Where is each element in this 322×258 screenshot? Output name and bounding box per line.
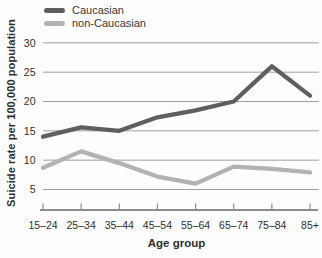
y-tick-label: 25 [24, 66, 36, 78]
x-tick-label: 75–84 [257, 219, 286, 231]
y-axis-title: Suicide rate per 100,000 population [5, 19, 17, 207]
suicide-rate-chart-figure: 5101520253015–2425–3435–4445–5455–6465–7… [0, 0, 322, 258]
legend-label-non-caucasian: non-Caucasian [72, 18, 146, 29]
x-tick-label: 65–74 [219, 219, 248, 231]
legend-label-caucasian: Caucasian [72, 5, 124, 16]
x-tick-label: 35–44 [105, 219, 134, 231]
series-line-non-caucasian [43, 151, 310, 183]
x-tick-label: 45–54 [143, 219, 172, 231]
line-chart-canvas: 5101520253015–2425–3435–4445–5455–6465–7… [0, 0, 322, 258]
y-tick-label: 10 [24, 154, 36, 166]
chart-legend: Caucasian non-Caucasian [44, 4, 146, 30]
x-tick-label: 25–34 [67, 219, 96, 231]
y-tick-label: 5 [30, 183, 36, 195]
legend-item-caucasian: Caucasian [44, 4, 146, 17]
y-tick-label: 15 [24, 125, 36, 137]
x-tick-label: 55–64 [181, 219, 210, 231]
x-tick-label: 85+ [301, 219, 319, 231]
x-tick-label: 15–24 [28, 219, 57, 231]
legend-swatch-caucasian-icon [44, 8, 65, 13]
x-axis-title: Age group [148, 237, 206, 249]
y-tick-label: 20 [24, 95, 36, 107]
legend-item-non-caucasian: non-Caucasian [44, 17, 146, 30]
legend-swatch-non-caucasian-icon [44, 21, 65, 26]
y-tick-label: 30 [24, 37, 36, 49]
